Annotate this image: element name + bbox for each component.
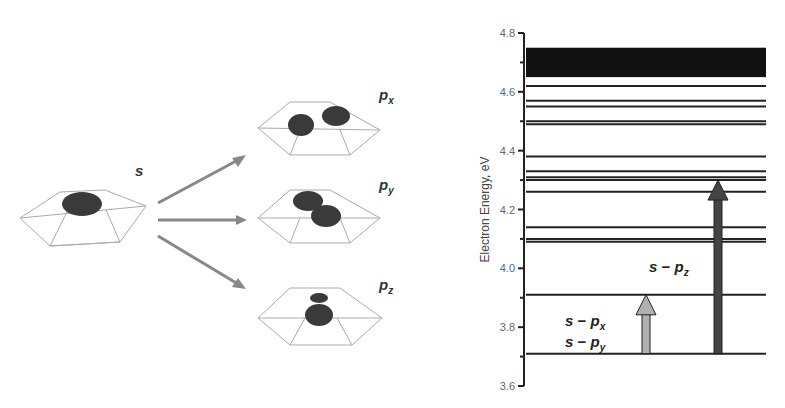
excitation-arrows bbox=[158, 160, 238, 284]
transition-label-s-px: s − px bbox=[565, 312, 605, 332]
y-axis-label: Electron Energy, eV bbox=[478, 157, 492, 263]
transition-arrow-s-pz bbox=[708, 180, 728, 354]
px-orbital-lobe-1 bbox=[288, 114, 314, 136]
pz-label: pz bbox=[379, 276, 393, 296]
y-tick-label: 4.8 bbox=[500, 27, 515, 39]
pz-orbital-lobe-bottom bbox=[305, 304, 333, 326]
y-tick-label: 3.6 bbox=[500, 380, 515, 392]
energy-level-chart: 3.63.84.04.24.44.64.8Electron Energy, eV bbox=[478, 27, 766, 392]
transition-arrow-s-pxy bbox=[636, 295, 656, 354]
pz-orbital-lobe-top bbox=[310, 293, 328, 303]
s-orbital-lobe bbox=[62, 192, 102, 216]
px-orbital-cluster bbox=[258, 102, 380, 155]
py-label: py bbox=[379, 176, 394, 196]
y-tick-label: 4.4 bbox=[500, 145, 515, 157]
y-tick-label: 4.6 bbox=[500, 86, 515, 98]
y-tick-label: 4.2 bbox=[500, 204, 515, 216]
py-orbital-lobe-2 bbox=[311, 205, 341, 227]
diagram-canvas: 3.63.84.04.24.44.64.8Electron Energy, eV bbox=[0, 0, 785, 408]
s-label: s bbox=[135, 162, 143, 179]
y-tick-label: 4.0 bbox=[500, 262, 515, 274]
y-tick-label: 3.8 bbox=[500, 321, 515, 333]
transition-label-s-pz: s − pz bbox=[649, 258, 689, 278]
px-label: px bbox=[379, 86, 394, 106]
px-orbital-lobe-2 bbox=[322, 106, 350, 126]
continuum-band bbox=[526, 48, 766, 77]
transition-label-s-py: s − py bbox=[565, 333, 605, 353]
